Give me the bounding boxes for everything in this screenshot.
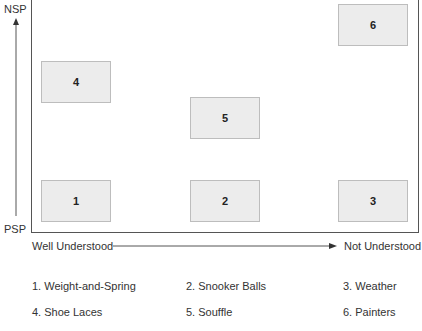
x-axis-right-label: Not Understood [344, 240, 421, 252]
legend-item-6: 6. Painters [343, 306, 396, 318]
vertical-arrow-icon [10, 18, 22, 218]
box-6-label: 6 [370, 19, 376, 31]
horizontal-arrow-icon [113, 241, 338, 251]
legend-item-1: 1. Weight-and-Spring [32, 280, 136, 292]
box-6: 6 [338, 4, 408, 46]
legend-item-2: 2. Snooker Balls [186, 280, 266, 292]
legend-item-3: 3. Weather [343, 280, 397, 292]
box-1: 1 [41, 180, 111, 222]
box-4: 4 [41, 61, 111, 103]
box-3: 3 [338, 180, 408, 222]
box-3-label: 3 [370, 195, 376, 207]
box-5: 5 [190, 97, 260, 139]
legend-item-5: 5. Souffle [186, 306, 232, 318]
box-2-label: 2 [222, 195, 228, 207]
x-axis-left-label: Well Understood [32, 240, 113, 252]
box-1-label: 1 [73, 195, 79, 207]
box-5-label: 5 [222, 112, 228, 124]
legend-item-4: 4. Shoe Laces [32, 306, 102, 318]
box-4-label: 4 [73, 76, 79, 88]
box-2: 2 [190, 180, 260, 222]
y-axis-top-label: NSP [4, 3, 27, 15]
y-axis-bottom-label: PSP [4, 223, 26, 235]
